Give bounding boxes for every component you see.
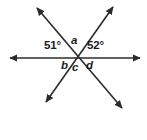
line-group <box>10 7 140 108</box>
angle-label-51: 51° <box>44 40 61 52</box>
angle-diagram-figure: 51° 52° a b c d <box>0 0 147 140</box>
angle-label-52: 52° <box>87 40 104 52</box>
angle-label-c: c <box>72 62 78 74</box>
angle-label-a: a <box>71 35 77 47</box>
diagonal-line-ne-sw <box>46 7 113 102</box>
angle-label-b: b <box>61 60 68 72</box>
angle-label-d: d <box>86 60 93 72</box>
